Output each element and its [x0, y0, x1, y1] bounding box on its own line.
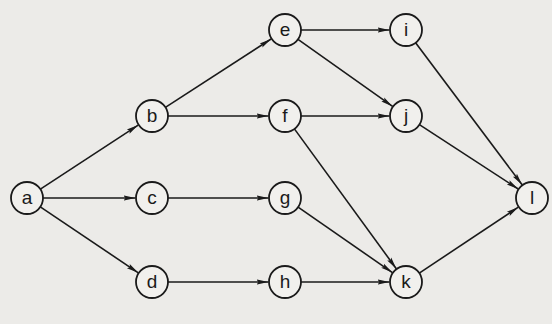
- node-label: l: [530, 187, 534, 208]
- edges-layer: [40, 30, 522, 282]
- node-label: b: [147, 105, 158, 126]
- node-label: h: [280, 271, 291, 292]
- node-f: f: [269, 100, 301, 132]
- node-label: c: [147, 187, 157, 208]
- node-c: c: [136, 182, 168, 214]
- node-label: f: [282, 105, 288, 126]
- node-label: g: [280, 187, 291, 208]
- edge-a-d: [40, 207, 138, 273]
- node-l: l: [516, 182, 548, 214]
- edge-j-l: [419, 125, 518, 189]
- edge-f-k: [294, 129, 396, 269]
- node-label: i: [404, 19, 408, 40]
- node-label: a: [22, 187, 33, 208]
- node-i: i: [390, 14, 422, 46]
- node-label: d: [147, 271, 158, 292]
- node-e: e: [269, 14, 301, 46]
- node-h: h: [269, 266, 301, 298]
- edge-i-l: [416, 43, 522, 185]
- node-b: b: [136, 100, 168, 132]
- edge-a-b: [40, 125, 138, 189]
- node-label: k: [401, 271, 411, 292]
- edge-b-e: [165, 39, 271, 107]
- edge-g-k: [298, 207, 392, 273]
- node-g: g: [269, 182, 301, 214]
- node-label: e: [280, 19, 291, 40]
- graph-canvas: abcdefghijkl: [0, 0, 552, 324]
- node-a: a: [11, 182, 43, 214]
- edge-k-l: [419, 207, 518, 273]
- node-label: j: [403, 105, 408, 126]
- node-k: k: [390, 266, 422, 298]
- node-d: d: [136, 266, 168, 298]
- node-j: j: [390, 100, 422, 132]
- edge-e-j: [298, 39, 393, 106]
